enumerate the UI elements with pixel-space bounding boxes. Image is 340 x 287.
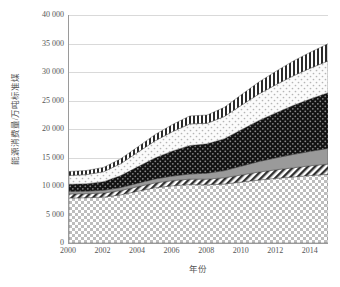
y-tick-label: 25 000 — [20, 97, 64, 105]
x-tick-label: 2000 — [60, 246, 76, 255]
x-tick-mark — [173, 243, 174, 244]
x-tick-mark — [155, 243, 156, 244]
x-tick-mark — [138, 243, 139, 244]
stacked-area-series — [69, 15, 328, 243]
y-tick-mark — [68, 243, 69, 244]
x-tick-mark — [207, 243, 208, 244]
x-tick-mark — [190, 243, 191, 244]
x-tick-label: 2006 — [164, 246, 180, 255]
x-axis-tick-labels: 20002002200420062008201020122014 — [0, 246, 340, 260]
x-tick-mark — [104, 243, 105, 244]
y-tick-label: 20 000 — [20, 125, 64, 133]
x-tick-mark — [242, 243, 243, 244]
x-axis-title: 年份 — [68, 262, 327, 274]
x-tick-mark — [69, 243, 70, 244]
x-tick-mark — [276, 243, 277, 244]
y-axis-tick-labels: 05 00010 00015 00020 00025 00030 00035 0… — [18, 0, 64, 287]
x-tick-label: 2004 — [129, 246, 145, 255]
x-tick-mark — [311, 243, 312, 244]
x-tick-label: 2014 — [302, 246, 318, 255]
x-tick-label: 2002 — [95, 246, 111, 255]
y-tick-label: 10 000 — [20, 182, 64, 190]
y-tick-label: 40 000 — [20, 11, 64, 19]
y-tick-label: 30 000 — [20, 68, 64, 76]
page-bleed-strip — [0, 279, 340, 287]
x-tick-mark — [293, 243, 294, 244]
y-tick-label: 5 000 — [20, 211, 64, 219]
x-tick-label: 2010 — [233, 246, 249, 255]
x-tick-mark — [121, 243, 122, 244]
x-tick-mark — [86, 243, 87, 244]
x-tick-mark — [259, 243, 260, 244]
energy-consumption-stacked-area-chart: 能源消费量/万吨标准煤 05 00010 00015 00020 00025 0… — [0, 0, 340, 287]
y-tick-label: 15 000 — [20, 154, 64, 162]
plot-area — [68, 15, 328, 244]
x-tick-label: 2008 — [198, 246, 214, 255]
y-tick-label: 35 000 — [20, 40, 64, 48]
x-tick-label: 2012 — [267, 246, 283, 255]
x-tick-mark — [224, 243, 225, 244]
